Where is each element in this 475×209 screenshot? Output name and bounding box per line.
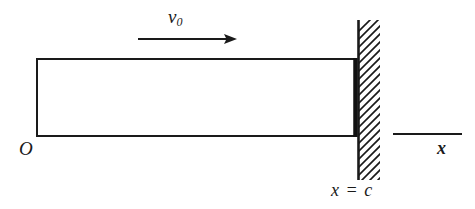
x-axis-label: x	[437, 139, 446, 157]
bar-rectangle	[37, 59, 356, 136]
origin-label: O	[19, 139, 33, 158]
velocity-subscript: 0	[176, 15, 182, 29]
wall-position-label: x = c	[331, 181, 373, 199]
wall-hatching	[358, 9, 381, 200]
bar-wall-diagram	[0, 0, 475, 209]
velocity-label: v0	[168, 7, 182, 28]
figure-canvas: v0 O x = c x	[0, 0, 475, 209]
velocity-arrow	[138, 34, 237, 44]
